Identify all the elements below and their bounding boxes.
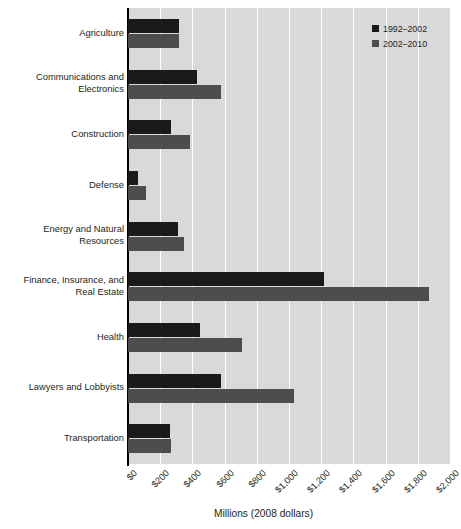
category-label-line: Agriculture xyxy=(0,27,124,39)
x-axis-title-text: Millions (2008 dollars) xyxy=(214,508,313,519)
category-label-line: Construction xyxy=(0,128,124,140)
bar-1 xyxy=(128,237,184,251)
legend-swatch-icon-series-0 xyxy=(372,25,379,32)
legend-swatch-icon-series-1 xyxy=(372,40,379,47)
category-label-line: Health xyxy=(0,331,124,343)
bar-1 xyxy=(128,338,242,352)
bar-0 xyxy=(128,323,200,337)
bar-1 xyxy=(128,85,221,99)
category-label-line: Real Estate xyxy=(0,286,124,298)
category-label-line: Lawyers and Lobbyists xyxy=(0,381,124,393)
category-label-line: Energy and Natural xyxy=(0,223,124,235)
bar-1 xyxy=(128,186,146,200)
bar-0 xyxy=(128,272,324,286)
bar-0 xyxy=(128,374,221,388)
category-label-line: Communications and xyxy=(0,71,124,83)
category-label-0: Agriculture xyxy=(0,27,124,39)
bar-1 xyxy=(128,287,429,301)
legend-label-series-0: 1992–2002 xyxy=(383,24,427,34)
category-label-8: Transportation xyxy=(0,432,124,444)
bar-1 xyxy=(128,34,179,48)
category-label-line: Transportation xyxy=(0,432,124,444)
legend-label-series-1: 2002–2010 xyxy=(383,39,427,49)
legend: 1992–2002 2002–2010 xyxy=(372,22,427,52)
bar-0 xyxy=(128,424,170,438)
legend-item-series-1: 2002–2010 xyxy=(372,37,427,50)
legend-item-series-0: 1992–2002 xyxy=(372,22,427,35)
category-label-2: Construction xyxy=(0,128,124,140)
category-label-1: Communications andElectronics xyxy=(0,71,124,94)
category-label-6: Health xyxy=(0,331,124,343)
bar-0 xyxy=(128,222,178,236)
category-label-3: Defense xyxy=(0,179,124,191)
category-label-line: Finance, Insurance, and xyxy=(0,274,124,286)
category-label-line: Electronics xyxy=(0,83,124,95)
bar-1 xyxy=(128,389,294,403)
bar-0 xyxy=(128,19,179,33)
bar-1 xyxy=(128,135,190,149)
bar-0 xyxy=(128,171,138,185)
category-label-5: Finance, Insurance, andReal Estate xyxy=(0,274,124,297)
bar-0 xyxy=(128,120,171,134)
bar-0 xyxy=(128,70,197,84)
category-label-line: Resources xyxy=(0,235,124,247)
bar-1 xyxy=(128,439,171,453)
category-label-line: Defense xyxy=(0,179,124,191)
x-axis-title: Millions (2008 dollars) xyxy=(0,508,459,519)
category-label-7: Lawyers and Lobbyists xyxy=(0,381,124,393)
category-label-4: Energy and NaturalResources xyxy=(0,223,124,246)
